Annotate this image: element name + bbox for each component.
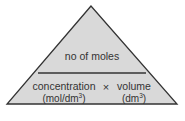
volume-unit: (dm3) <box>122 92 146 104</box>
top-label: no of moles <box>65 50 119 62</box>
formula-triangle: no of moles concentration × volume (mol/… <box>0 0 185 121</box>
volume-label: volume <box>117 80 151 92</box>
concentration-label: concentration <box>32 80 95 92</box>
multiply-operator: × <box>103 81 109 93</box>
